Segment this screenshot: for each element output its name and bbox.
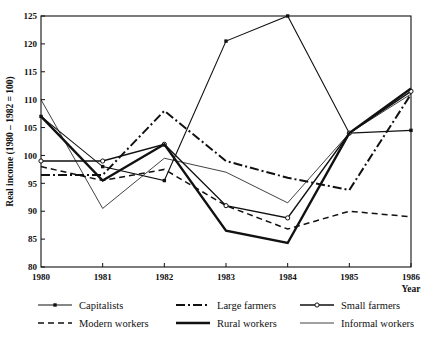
- y-tick-label: 100: [24, 151, 38, 161]
- y-tick-label: 115: [24, 67, 38, 77]
- legend-label: Rural workers: [217, 318, 277, 329]
- x-tick-label: 1982: [155, 272, 174, 282]
- legend-marker: [315, 303, 319, 307]
- series-line-informal-workers: [41, 94, 411, 208]
- legend-label: Capitalists: [79, 300, 123, 311]
- legend-label: Large farmers: [217, 300, 276, 311]
- series-lines: [39, 14, 413, 243]
- y-axis-title: Real income (1980 – 1982 = 100): [5, 76, 16, 206]
- legend-entry-modern-workers[interactable]: Modern workers: [38, 318, 149, 329]
- legend-marker: [53, 303, 56, 306]
- y-axis-ticks: 80859095100105110115120125: [24, 11, 46, 272]
- y-tick-label: 80: [28, 262, 38, 272]
- x-tick-label: 1985: [340, 272, 359, 282]
- series-marker: [224, 39, 227, 42]
- y-tick-label: 105: [24, 123, 38, 133]
- y-tick-label: 110: [24, 95, 38, 105]
- series-marker: [286, 14, 289, 17]
- series-line-small-farmers: [41, 91, 411, 218]
- legend-entry-large-farmers[interactable]: Large farmers: [176, 300, 276, 311]
- legend-entry-informal-workers[interactable]: Informal workers: [300, 318, 414, 329]
- series-marker: [101, 159, 105, 163]
- chart-legend: CapitalistsLarge farmersSmall farmersMod…: [38, 300, 414, 329]
- y-tick-label: 85: [28, 234, 38, 244]
- series-line-rural-workers: [41, 89, 411, 244]
- series-marker: [409, 129, 412, 132]
- series-marker: [163, 179, 166, 182]
- legend-label: Informal workers: [341, 318, 414, 329]
- x-tick-label: 1980: [32, 272, 51, 282]
- line-chart-figure: 80859095100105110115120125 1980198119821…: [0, 0, 430, 344]
- x-axis-ticks: 1980198119821983198419851986: [32, 263, 421, 282]
- legend-entry-rural-workers[interactable]: Rural workers: [176, 318, 277, 329]
- legend-entry-capitalists[interactable]: Capitalists: [38, 300, 123, 311]
- series-marker: [39, 159, 43, 163]
- x-tick-label: 1984: [279, 272, 298, 282]
- y-tick-label: 120: [24, 39, 38, 49]
- x-tick-label: 1981: [94, 272, 113, 282]
- y-tick-label: 95: [28, 179, 38, 189]
- legend-label: Small farmers: [341, 300, 400, 311]
- x-tick-label: 1983: [217, 272, 236, 282]
- legend-label: Modern workers: [79, 318, 149, 329]
- x-axis-title: Year: [402, 284, 422, 294]
- y-tick-label: 125: [24, 11, 38, 21]
- y-tick-label: 90: [28, 206, 38, 216]
- x-tick-label: 1986: [402, 272, 421, 282]
- series-marker: [286, 216, 290, 220]
- legend-entry-small-farmers[interactable]: Small farmers: [300, 300, 400, 311]
- series-marker: [101, 165, 104, 168]
